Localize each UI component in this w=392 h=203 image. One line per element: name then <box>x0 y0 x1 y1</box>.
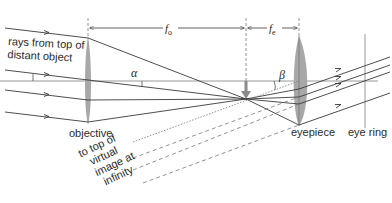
eye-ring-label: eye ring <box>348 126 387 138</box>
focal-length-objective-label: fo <box>165 22 172 37</box>
objective-lens <box>85 18 91 125</box>
focal-length-eyepiece-label: fe <box>269 22 276 37</box>
alpha-label: α <box>131 66 138 80</box>
rays-label: rays from top of distant object <box>7 35 88 64</box>
beta-label: β <box>278 68 285 82</box>
eyepiece-label: eyepiece <box>291 126 335 138</box>
intermediate-image-arrow <box>241 81 251 99</box>
converging-rays <box>88 38 246 122</box>
emerging-rays <box>299 57 390 125</box>
telescope-diagram: fo fe α <box>0 0 392 203</box>
virtual-image-extensions <box>133 97 299 183</box>
eyepiece-lens <box>294 18 308 126</box>
